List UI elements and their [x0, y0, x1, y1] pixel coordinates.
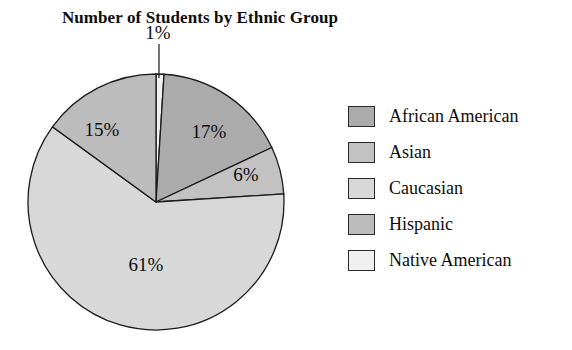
legend-item-hispanic[interactable]: Hispanic	[348, 206, 568, 242]
legend-item-caucasian[interactable]: Caucasian	[348, 170, 568, 206]
legend-label-native-american: Native American	[389, 250, 511, 271]
slice-label-asian: 6%	[233, 164, 258, 186]
slice-label-native-american: 1%	[145, 22, 170, 44]
legend-label-caucasian: Caucasian	[389, 178, 463, 199]
slice-label-hispanic: 15%	[85, 119, 120, 141]
legend-item-african-american[interactable]: African American	[348, 98, 568, 134]
legend-label-hispanic: Hispanic	[389, 214, 453, 235]
pie-chart-figure: Number of Students by Ethnic Group 1% 17…	[0, 0, 572, 350]
pie-plot-area: 1% 17% 6% 61% 15%	[0, 0, 340, 350]
slice-label-caucasian: 61%	[129, 254, 164, 276]
pie-svg	[0, 0, 340, 350]
legend-swatch-caucasian	[348, 178, 375, 199]
legend-swatch-asian	[348, 142, 375, 163]
legend-swatch-native-american	[348, 250, 375, 271]
legend-item-asian[interactable]: Asian	[348, 134, 568, 170]
legend-swatch-hispanic	[348, 214, 375, 235]
slice-label-african-american: 17%	[192, 121, 227, 143]
legend-label-asian: Asian	[389, 142, 431, 163]
legend-swatch-african-american	[348, 106, 375, 127]
legend: African American Asian Caucasian Hispani…	[348, 98, 568, 278]
legend-label-african-american: African American	[389, 106, 518, 127]
legend-item-native-american[interactable]: Native American	[348, 242, 568, 278]
